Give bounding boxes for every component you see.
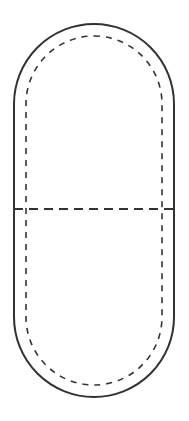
capsule-diagram <box>0 0 189 421</box>
diagram-canvas <box>0 0 189 421</box>
outer-outline <box>14 24 174 397</box>
inner-seam-line <box>26 36 162 385</box>
